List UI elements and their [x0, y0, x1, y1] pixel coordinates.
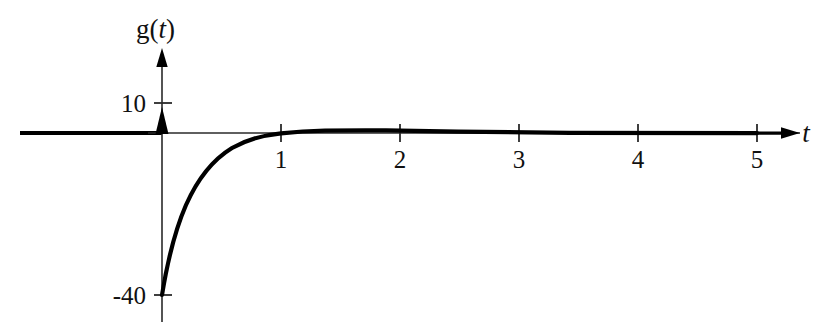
- x-tick-label-3: 3: [513, 146, 526, 173]
- y-axis-label: g(t): [136, 14, 175, 44]
- figure-container: g(t) t 10 -40 1 2 3 4 5: [0, 0, 835, 335]
- y-axis-label-function: g: [136, 14, 150, 44]
- y-tick-label-minus-40: -40: [113, 282, 146, 309]
- signal-curve: [162, 130, 757, 295]
- y-axis-arrowhead-icon: [156, 48, 167, 67]
- x-axis-arrowhead-icon: [781, 127, 800, 139]
- x-tick-label-2: 2: [394, 146, 407, 173]
- x-tick-label-4: 4: [632, 146, 645, 173]
- x-tick-label-5: 5: [751, 146, 764, 173]
- y-tick-label-10: 10: [121, 90, 146, 117]
- y-axis-label-close-paren: ): [166, 14, 175, 44]
- plot-canvas: g(t) t 10 -40 1 2 3 4 5: [0, 0, 835, 335]
- y-axis-label-open-paren: (: [150, 14, 159, 44]
- impulse-arrowhead-icon: [156, 107, 169, 134]
- x-axis-label: t: [802, 118, 811, 148]
- x-tick-label-1: 1: [275, 146, 288, 173]
